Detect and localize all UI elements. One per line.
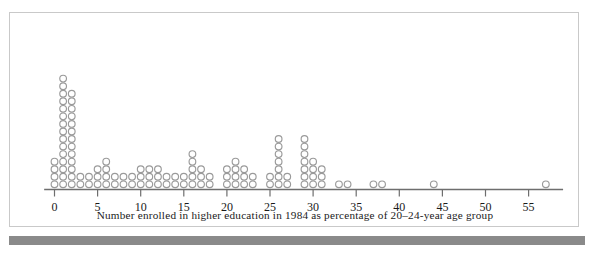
data-dot bbox=[60, 83, 67, 90]
data-dot bbox=[310, 173, 317, 180]
data-dot bbox=[301, 143, 308, 150]
data-dot bbox=[68, 113, 75, 120]
data-dot bbox=[301, 158, 308, 165]
data-dot bbox=[94, 173, 101, 180]
data-dot bbox=[77, 173, 84, 180]
data-dot bbox=[137, 181, 144, 188]
data-dot bbox=[86, 173, 93, 180]
data-dot bbox=[198, 173, 205, 180]
data-dot bbox=[51, 173, 58, 180]
data-dot bbox=[275, 181, 282, 188]
data-dot bbox=[155, 166, 162, 173]
data-dot bbox=[275, 136, 282, 143]
data-dot bbox=[189, 151, 196, 158]
data-dot bbox=[77, 181, 84, 188]
data-dot bbox=[51, 181, 58, 188]
data-dot bbox=[68, 158, 75, 165]
data-dot bbox=[275, 143, 282, 150]
data-dot bbox=[146, 181, 153, 188]
data-dot bbox=[103, 181, 110, 188]
data-dot bbox=[68, 128, 75, 135]
data-dot bbox=[137, 173, 144, 180]
data-dot bbox=[232, 181, 239, 188]
data-dot bbox=[68, 143, 75, 150]
data-dot bbox=[163, 173, 170, 180]
data-dot bbox=[129, 181, 136, 188]
data-dot bbox=[129, 173, 136, 180]
data-dot bbox=[267, 181, 274, 188]
data-dot bbox=[224, 181, 231, 188]
data-dot bbox=[60, 121, 67, 128]
data-dot bbox=[189, 166, 196, 173]
data-dot bbox=[60, 113, 67, 120]
data-dot bbox=[318, 181, 325, 188]
data-dot bbox=[60, 136, 67, 143]
data-dot bbox=[60, 158, 67, 165]
data-dot bbox=[60, 151, 67, 158]
data-dot bbox=[146, 173, 153, 180]
data-dot bbox=[60, 90, 67, 97]
data-dot bbox=[275, 166, 282, 173]
data-dot bbox=[241, 181, 248, 188]
data-dot bbox=[232, 173, 239, 180]
data-dot bbox=[249, 181, 256, 188]
data-dot bbox=[60, 75, 67, 82]
data-dot bbox=[284, 181, 291, 188]
data-dot bbox=[224, 173, 231, 180]
data-dot bbox=[68, 90, 75, 97]
data-dot bbox=[146, 166, 153, 173]
data-dot bbox=[224, 166, 231, 173]
data-dot bbox=[155, 181, 162, 188]
data-dot bbox=[370, 181, 377, 188]
data-dot bbox=[172, 181, 179, 188]
figure-root: 0510152025303540455055 Number enrolled i… bbox=[0, 0, 593, 255]
data-dot bbox=[163, 181, 170, 188]
data-dot bbox=[120, 173, 127, 180]
data-dot bbox=[284, 173, 291, 180]
dot-plot: 0510152025303540455055 Number enrolled i… bbox=[10, 13, 580, 228]
data-dot bbox=[180, 181, 187, 188]
data-dot bbox=[301, 181, 308, 188]
data-dot bbox=[60, 173, 67, 180]
data-dot bbox=[189, 158, 196, 165]
data-dot bbox=[301, 151, 308, 158]
x-axis-ticks bbox=[55, 190, 529, 197]
data-dot bbox=[60, 105, 67, 112]
data-dot bbox=[241, 173, 248, 180]
data-dot bbox=[198, 166, 205, 173]
data-dot bbox=[189, 173, 196, 180]
data-dot bbox=[120, 181, 127, 188]
data-dot bbox=[60, 143, 67, 150]
data-dot bbox=[310, 181, 317, 188]
data-dot bbox=[68, 181, 75, 188]
data-dot bbox=[68, 173, 75, 180]
data-dot bbox=[103, 173, 110, 180]
data-dot bbox=[198, 181, 205, 188]
data-dot bbox=[542, 181, 549, 188]
data-dot bbox=[430, 181, 437, 188]
data-dot bbox=[51, 158, 58, 165]
data-dot bbox=[189, 181, 196, 188]
data-dot bbox=[155, 173, 162, 180]
data-dot bbox=[379, 181, 386, 188]
data-dot bbox=[60, 166, 67, 173]
data-dot bbox=[275, 151, 282, 158]
data-dot bbox=[301, 136, 308, 143]
data-dot bbox=[103, 158, 110, 165]
bottom-decorative-bar bbox=[9, 236, 585, 245]
data-dot bbox=[267, 173, 274, 180]
data-dot bbox=[241, 166, 248, 173]
data-dot bbox=[232, 166, 239, 173]
data-dot bbox=[206, 181, 213, 188]
data-dot bbox=[344, 181, 351, 188]
x-axis-caption: Number enrolled in higher education in 1… bbox=[10, 209, 580, 221]
data-dot bbox=[137, 166, 144, 173]
data-dot bbox=[310, 166, 317, 173]
data-dot bbox=[275, 173, 282, 180]
data-dot bbox=[336, 181, 343, 188]
data-dot bbox=[68, 166, 75, 173]
data-dot bbox=[103, 166, 110, 173]
data-dot bbox=[68, 98, 75, 105]
data-dot bbox=[68, 121, 75, 128]
data-dot bbox=[111, 173, 118, 180]
